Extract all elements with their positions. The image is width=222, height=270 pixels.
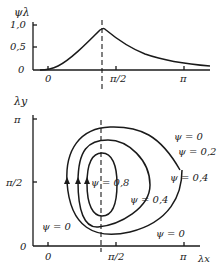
bottom-plot: λy π π/2 0 0 π/2 π λx ψ = 0 ψ = 0,2 ψ = … bbox=[5, 95, 216, 264]
bottom-xtick-label-pi2: π/2 bbox=[107, 251, 124, 262]
label-psi0-top: ψ = 0 bbox=[174, 131, 204, 142]
arrow-outer bbox=[64, 177, 70, 184]
label-psi0-bottom: ψ = 0 bbox=[156, 228, 186, 239]
label-psi04-inner: ψ = 0,4 bbox=[130, 194, 168, 205]
top-ytick-label-1: 1,0 bbox=[10, 19, 27, 30]
top-ylabel: ψλ bbox=[14, 6, 30, 19]
top-plot: ψλ 1,0 0,5 0 0 π/2 π bbox=[10, 6, 210, 90]
bottom-xlabel: λx bbox=[197, 253, 210, 264]
top-xtick-label-pi2: π/2 bbox=[109, 73, 126, 84]
label-psi0-left: ψ = 0 bbox=[42, 221, 72, 232]
top-ytick-label-05: 0,5 bbox=[10, 41, 26, 52]
label-psi02: ψ = 0,2 bbox=[178, 146, 216, 157]
bottom-xtick-label-pi: π bbox=[179, 251, 187, 262]
bottom-xtick-label-0: 0 bbox=[45, 251, 52, 262]
bottom-ytick-label-pi: π bbox=[13, 114, 21, 125]
top-psi-curve bbox=[40, 29, 210, 71]
top-xtick-label-0: 0 bbox=[45, 73, 52, 84]
top-xtick-label-pi: π bbox=[179, 73, 187, 84]
label-psi04-right: ψ = 0,4 bbox=[170, 172, 208, 183]
arrow-middle bbox=[75, 177, 81, 184]
bottom-ytick-label-pi2: π/2 bbox=[5, 177, 22, 188]
bottom-ylabel: λy bbox=[13, 95, 28, 108]
bottom-ytick-label-0: 0 bbox=[20, 241, 27, 252]
figure: ψλ 1,0 0,5 0 0 π/2 π λy π π/2 0 0 π/2 π … bbox=[0, 0, 222, 270]
arrow-inner bbox=[84, 177, 90, 184]
top-ytick-label-0: 0 bbox=[18, 64, 25, 75]
label-psi08: ψ = 0,8 bbox=[91, 177, 129, 188]
